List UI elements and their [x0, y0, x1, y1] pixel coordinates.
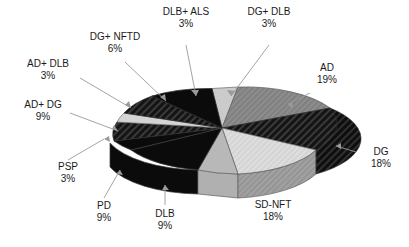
- slice-label-ad: AD 19%: [305, 62, 349, 85]
- slice-label-dlb-als: DLB+ ALS 3%: [143, 6, 229, 29]
- slice-label-dg-name: DG: [374, 146, 389, 157]
- slice-label-psp-name: PSP: [58, 161, 78, 172]
- slice-label-dg-dlb-pct: 3%: [228, 18, 310, 30]
- slice-label-dlb: DLB 9%: [139, 208, 191, 231]
- slice-label-dg-dlb: DG+ DLB 3%: [228, 6, 310, 29]
- slice-label-ad-dg: AD+ DG 9%: [5, 99, 81, 122]
- slice-label-ad-dlb-name: AD+ DLB: [27, 58, 69, 69]
- leader-line-dlb-als: [186, 45, 196, 96]
- leader-line-ad-dlb: [80, 78, 131, 108]
- slice-label-sd-nft-pct: 18%: [238, 211, 308, 223]
- leader-line-psp: [68, 139, 104, 160]
- slice-label-sd-nft: SD-NFT 18%: [238, 199, 308, 222]
- slice-label-ad-dlb-pct: 3%: [8, 70, 88, 82]
- slice-label-ad-dlb: AD+ DLB 3%: [8, 58, 88, 81]
- slice-label-dg-nftd-pct: 6%: [69, 43, 161, 55]
- slice-label-dlb-als-name: DLB+ ALS: [163, 6, 209, 17]
- slice-label-dlb-pct: 9%: [139, 220, 191, 232]
- slice-label-ad-pct: 19%: [305, 74, 349, 86]
- slice-label-dg-nftd-name: DG+ NFTD: [90, 31, 140, 42]
- slice-label-ad-dg-name: AD+ DG: [24, 99, 62, 110]
- slice-label-ad-dg-pct: 9%: [5, 111, 81, 123]
- leader-line-dg-nftd: [125, 62, 166, 101]
- slice-label-dlb-name: DLB: [155, 208, 174, 219]
- slice-label-dg-pct: 18%: [360, 158, 402, 170]
- arrowhead-psp: [104, 136, 110, 142]
- slice-label-psp: PSP 3%: [41, 161, 95, 184]
- slice-label-dlb-als-pct: 3%: [143, 18, 229, 30]
- slice-label-dg: DG 18%: [360, 146, 402, 169]
- pie-chart-figure: DLB+ ALS 3% DG+ DLB 3% DG+ NFTD 6% AD+ D…: [0, 0, 409, 247]
- pie-chart-svg: [0, 0, 409, 247]
- slice-label-pd-pct: 9%: [78, 212, 130, 224]
- slice-label-pd-name: PD: [97, 200, 111, 211]
- slice-label-dg-nftd: DG+ NFTD 6%: [69, 31, 161, 54]
- slice-label-psp-pct: 3%: [41, 173, 95, 185]
- slice-label-dg-dlb-name: DG+ DLB: [247, 6, 290, 17]
- slice-label-pd: PD 9%: [78, 200, 130, 223]
- arrowhead-ad-dlb: [125, 101, 131, 108]
- slice-label-sd-nft-name: SD-NFT: [255, 199, 292, 210]
- slice-label-ad-name: AD: [320, 62, 334, 73]
